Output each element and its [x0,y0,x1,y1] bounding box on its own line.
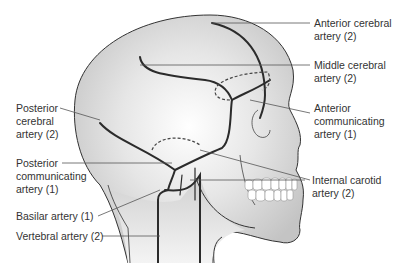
label-anterior-communicating: Anterior communicating artery (1) [314,102,385,141]
label-anterior-cerebral: Anterior cerebral artery (2) [314,17,392,43]
label-posterior-communicating: Posterior communicating artery (1) [16,157,87,196]
label-vertebral: Vertebral artery (2) [16,230,104,243]
label-posterior-cerebral: Posterior cerebral artery (2) [16,102,59,141]
label-basilar: Basilar artery (1) [16,210,94,223]
label-internal-carotid: Internal carotid artery (2) [312,174,381,200]
label-middle-cerebral: Middle cerebral artery (2) [314,59,386,85]
